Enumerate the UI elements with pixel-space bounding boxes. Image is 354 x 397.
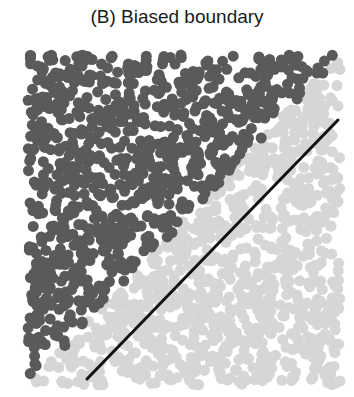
data-point <box>278 127 289 138</box>
data-point <box>85 286 96 297</box>
data-point <box>27 84 38 95</box>
data-point <box>275 300 286 311</box>
data-point <box>64 90 75 101</box>
data-point <box>276 375 287 386</box>
data-point <box>321 233 332 244</box>
data-point <box>111 105 122 116</box>
data-point <box>283 64 294 75</box>
data-point <box>164 199 175 210</box>
data-point <box>99 281 110 292</box>
data-point <box>285 215 296 226</box>
data-point <box>117 200 128 211</box>
data-point <box>284 257 295 268</box>
data-point <box>44 361 55 372</box>
data-point <box>262 70 273 81</box>
data-point <box>52 331 63 342</box>
data-point <box>192 317 203 328</box>
data-point <box>122 355 133 366</box>
data-point <box>175 80 186 91</box>
data-point <box>253 268 264 279</box>
data-point <box>149 179 160 190</box>
data-point <box>48 128 59 139</box>
data-point <box>231 365 242 376</box>
data-point <box>311 355 322 366</box>
data-point <box>246 123 257 134</box>
data-point <box>40 78 51 89</box>
data-point <box>313 155 324 166</box>
data-point <box>137 186 148 197</box>
data-point <box>135 113 146 124</box>
scatter-plot <box>0 0 354 397</box>
data-point <box>178 108 189 119</box>
data-point <box>308 267 319 278</box>
data-point <box>292 290 303 301</box>
data-point <box>100 94 111 105</box>
data-point <box>32 135 43 146</box>
data-point <box>116 309 127 320</box>
data-point <box>225 304 236 315</box>
data-point <box>245 68 256 79</box>
data-point <box>37 207 48 218</box>
data-point <box>202 276 213 287</box>
data-point <box>228 51 239 62</box>
data-point <box>253 112 264 123</box>
data-point <box>286 54 297 65</box>
data-point <box>281 152 292 163</box>
data-point <box>155 215 166 226</box>
data-point <box>231 202 242 213</box>
data-point <box>262 372 273 383</box>
data-point <box>234 354 245 365</box>
data-point <box>28 221 39 232</box>
data-point <box>110 89 121 100</box>
data-point <box>68 266 79 277</box>
data-point <box>306 374 317 385</box>
data-point <box>23 165 34 176</box>
data-point <box>62 164 73 175</box>
data-point <box>211 64 222 75</box>
data-point <box>316 246 327 257</box>
data-point <box>62 231 73 242</box>
data-point <box>251 180 262 191</box>
data-point <box>295 215 306 226</box>
data-point <box>140 370 151 381</box>
data-point <box>178 294 189 305</box>
data-point <box>290 247 301 258</box>
data-point <box>170 330 181 341</box>
data-point <box>208 82 219 93</box>
data-point <box>54 71 65 82</box>
data-point <box>193 268 204 279</box>
data-point <box>302 297 313 308</box>
data-point <box>23 322 34 333</box>
data-point <box>272 161 283 172</box>
data-point <box>292 179 303 190</box>
data-point <box>93 105 104 116</box>
data-point <box>303 103 314 114</box>
data-point <box>214 127 225 138</box>
data-point <box>103 225 114 236</box>
data-point <box>243 353 254 364</box>
data-point <box>69 190 80 201</box>
data-point <box>317 284 328 295</box>
data-point <box>37 92 48 103</box>
data-point <box>125 301 136 312</box>
data-point <box>277 334 288 345</box>
data-point <box>150 378 161 389</box>
data-point <box>187 69 198 80</box>
data-point <box>62 298 73 309</box>
data-point <box>260 240 271 251</box>
data-point <box>191 85 202 96</box>
data-point <box>126 212 137 223</box>
data-point <box>148 361 159 372</box>
data-point <box>115 297 126 308</box>
data-point <box>202 213 213 224</box>
data-point <box>118 276 129 287</box>
data-point <box>165 302 176 313</box>
data-point <box>53 362 64 373</box>
data-point <box>140 99 151 110</box>
data-point <box>276 87 287 98</box>
data-point <box>293 198 304 209</box>
data-point <box>119 169 130 180</box>
data-point <box>25 197 36 208</box>
data-point <box>52 169 63 180</box>
data-point <box>64 210 75 221</box>
